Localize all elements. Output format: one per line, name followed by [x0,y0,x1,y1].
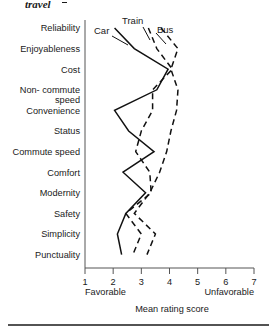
category-label: Convenience [26,106,80,116]
series-paths-group [115,28,178,255]
x-axis-tick-label: 7 [251,277,256,287]
caption-tail-text: travel [25,0,51,9]
x-anchor-low-label: Favorable [85,287,126,297]
x-axis-tick-label: 4 [167,277,172,287]
category-label: Enjoyableness [20,44,80,54]
series-label-bus: Bus [157,24,174,35]
figure-panel: travel ReliabilityEnjoyablenessCostNon- … [0,0,277,332]
x-axis-tick-label: 6 [223,277,228,287]
x-axis-tick-label: 3 [139,277,144,287]
category-label: Commute speed [13,147,80,157]
category-label: Non- commute [20,85,80,95]
category-label: Cost [61,65,80,75]
category-label: Status [54,126,80,136]
category-label: Simplicity [41,229,80,239]
category-label: Comfort [47,168,80,178]
x-axis-tick-label: 5 [195,277,200,287]
category-label: Reliability [41,23,81,33]
series-annotation-group: CarTrainBus [94,15,174,45]
x-axis-tick-label: 2 [111,277,116,287]
series-label-car: Car [94,25,109,36]
category-label: Safety [54,209,80,219]
profile-line-chart: ReliabilityEnjoyablenessCostNon- commute… [0,0,277,332]
category-label: Modernity [40,188,81,198]
x-axis-ticks [85,268,254,274]
x-axis-tick-labels: 1234567 [82,277,256,287]
series-line-train [126,28,172,255]
series-label-train: Train [122,15,143,26]
category-axis-labels: ReliabilityEnjoyablenessCostNon- commute… [13,23,81,260]
caption-trailing-dash [62,2,67,3]
category-label: Punctuality [35,250,80,260]
x-axis-tick-label: 1 [82,277,87,287]
x-anchor-high-label: Unfavorable [204,287,254,297]
x-axis-title: Mean rating score [135,304,209,314]
category-label: speed [55,95,80,105]
